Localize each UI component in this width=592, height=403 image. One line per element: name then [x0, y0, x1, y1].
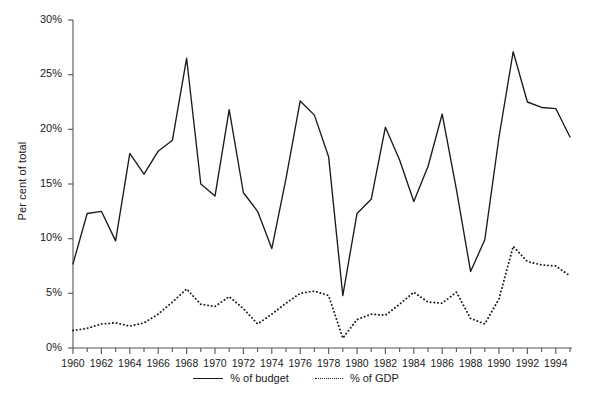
legend-label-budget: % of budget	[230, 372, 289, 384]
line-chart: Per cent of total 30%25%20%15%10%5%0% 19…	[0, 0, 592, 403]
chart-legend: % of budget % of GDP	[0, 372, 592, 384]
x-tick-label: 1994	[533, 357, 579, 369]
y-tick-label: 30%	[26, 13, 62, 25]
y-tick-label: 25%	[26, 67, 62, 79]
y-axis-tick-labels: 30%25%20%15%10%5%0%	[26, 0, 62, 403]
plot-area	[0, 0, 592, 403]
y-tick-label: 0%	[26, 341, 62, 353]
data-series	[73, 52, 570, 338]
legend-line-dotted-icon	[315, 378, 343, 379]
axes	[68, 20, 572, 354]
y-tick-label: 5%	[26, 286, 62, 298]
y-tick-label: 10%	[26, 231, 62, 243]
y-tick-label: 15%	[26, 177, 62, 189]
series-line-gdp	[73, 246, 570, 338]
legend-label-gdp: % of GDP	[350, 372, 399, 384]
series-line-budget	[73, 52, 570, 296]
y-tick-label: 20%	[26, 122, 62, 134]
legend-item-budget[interactable]: % of budget	[193, 372, 289, 384]
legend-line-solid-icon	[193, 378, 223, 379]
legend-item-gdp[interactable]: % of GDP	[315, 372, 399, 384]
